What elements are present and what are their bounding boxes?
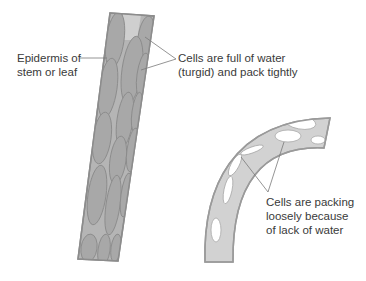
wilted-stem <box>205 112 330 262</box>
turgid-label-line1: Cells are full of water <box>178 51 298 65</box>
wilted-label-line1: Cells are packing <box>266 195 354 209</box>
turgid-stem <box>78 11 157 267</box>
epidermis-label: Epidermis of stem or leaf <box>17 51 81 79</box>
turgid-label-line2: (turgid) and pack tightly <box>178 65 298 79</box>
stem-diagram <box>0 0 366 281</box>
wilted-label: Cells are packing loosely because of lac… <box>266 195 354 237</box>
epidermis-label-line1: Epidermis of <box>17 51 81 65</box>
wilted-label-line2: loosely because <box>266 209 354 223</box>
epidermis-label-line2: stem or leaf <box>17 65 81 79</box>
turgid-label: Cells are full of water (turgid) and pac… <box>178 51 298 79</box>
wilted-label-line3: of lack of water <box>266 223 354 237</box>
